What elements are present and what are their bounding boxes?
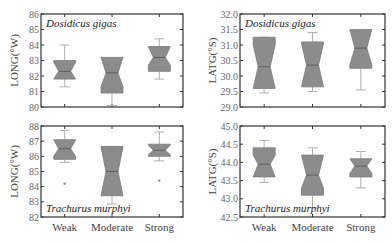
species-label: Trachurus murphyi [245,202,330,214]
x-tick-label-strong: Strong [145,221,175,233]
notched-box [302,42,324,87]
box-weak [253,37,275,93]
y-tick-label: 82 [29,71,39,82]
y-axis-label: LONG(°W) [8,34,21,87]
x-tick-label-moderate: Moderate [91,221,133,233]
panel-bottom-right: 42.543.043.544.044.545.0WeakModerateStro… [206,121,385,234]
box-strong [350,30,372,90]
box-moderate [101,57,123,105]
notched-box [253,37,275,88]
species-label: Dosidicus gigas [45,17,117,29]
x-tick-label-moderate: Moderate [291,221,333,233]
species-label: Trachurus murphyi [46,202,131,214]
box-moderate [302,148,324,208]
notched-box [350,30,372,69]
notched-box [350,159,372,177]
notched-box [253,148,275,177]
y-axis-label: LATG(°S) [206,37,219,83]
y-tick-label: 29.5 [221,86,239,97]
y-tick-label: 31.0 [221,40,239,51]
y-tick-label: 84 [29,181,39,192]
y-tick-label: 87 [29,136,39,147]
box-moderate [302,33,324,92]
y-tick-label: 83 [29,55,39,66]
y-tick-label: 31.5 [221,24,239,35]
box-strong [148,132,170,182]
y-tick-label: 43.0 [221,193,239,204]
y-tick-label: 84 [29,40,39,51]
y-tick-label: 29.0 [221,102,239,113]
y-tick-label: 88 [29,121,39,132]
y-tick-label: 85 [29,166,39,177]
x-tick-label-weak: Weak [252,221,277,233]
y-tick-label: 86 [29,9,39,20]
notched-box [54,140,76,160]
y-tick-label: 85 [29,24,39,35]
species-label: Dosidicus gigas [244,17,316,29]
notched-box [148,47,170,72]
notched-box [101,57,123,93]
panel-bottom-left: 82838485868788WeakModerateStrongLONG(°W)… [8,121,183,234]
y-tick-label: 82 [29,212,39,223]
y-tick-label: 43.5 [221,175,239,186]
outlier-point [158,179,160,181]
y-tick-label: 81 [29,86,39,97]
box-weak [253,141,275,183]
x-tick-label-weak: Weak [52,221,77,233]
y-tick-label: 42.5 [221,212,239,223]
y-tick-label: 30.0 [221,71,239,82]
outlier-point [63,182,65,184]
y-axis-label: LATG(°S) [206,148,219,194]
box-moderate [101,146,123,204]
notched-box [54,61,76,80]
y-tick-label: 86 [29,151,39,162]
panel-top-right: 29.029.530.030.531.031.532.0LATG(°S)Dosi… [206,9,385,113]
y-tick-label: 30.5 [221,55,239,66]
box-strong [350,151,372,187]
y-tick-label: 83 [29,196,39,207]
y-tick-label: 32.0 [221,9,239,20]
figure: 80818283848586LONG(°W)Dosidicus gigas29.… [0,0,392,243]
y-tick-label: 44.5 [221,139,239,150]
y-tick-label: 80 [29,102,39,113]
box-weak [54,45,76,87]
box-strong [148,39,170,79]
box-weak [54,131,76,185]
y-tick-label: 44.0 [221,157,239,168]
panel-top-left: 80818283848586LONG(°W)Dosidicus gigas [8,9,183,113]
x-tick-label-strong: Strong [346,221,376,233]
y-tick-label: 45.0 [221,121,239,132]
y-axis-label: LONG(°W) [8,145,21,198]
